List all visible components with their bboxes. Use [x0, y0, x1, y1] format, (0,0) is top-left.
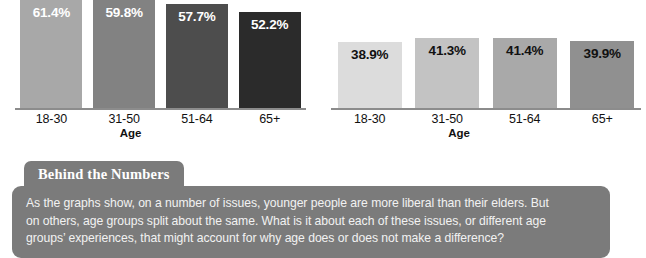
x-axis-title: Age: [15, 127, 246, 139]
bar-value-label: 41.4%: [493, 43, 557, 58]
plot-area-left: 61.4% 59.8% 57.7% 52.2%: [15, 0, 306, 108]
x-axis-line: [331, 108, 641, 110]
callout-text-line: groups’ experiences, that might account …: [26, 230, 596, 248]
bar-value-label: 57.7%: [166, 9, 228, 24]
x-tick-label: 51-64: [161, 112, 234, 126]
bar: 59.8%: [93, 0, 155, 108]
x-tick-label: 31-50: [409, 112, 487, 126]
x-tick-label: 65+: [233, 112, 306, 126]
callout-body: As the graphs show, on a number of issue…: [12, 186, 610, 258]
bar: 39.9%: [570, 41, 634, 108]
x-axis-tick-labels: 18-30 31-50 51-64 65+: [15, 112, 306, 126]
bar-value-label: 61.4%: [20, 5, 82, 20]
bar: 52.2%: [239, 12, 301, 108]
bar-chart-right: 38.9% 41.3% 41.4% 39.9% 18-30: [331, 0, 641, 140]
bar: 41.3%: [415, 38, 479, 108]
x-tick-label: 18-30: [331, 112, 409, 126]
bar-slot: 52.2%: [233, 0, 306, 108]
bar-value-label: 41.3%: [415, 43, 479, 58]
bar-slot: 57.7%: [161, 0, 234, 108]
callout-text-line: on others, age groups split about the sa…: [26, 213, 596, 231]
callout-tab: Behind the Numbers: [24, 161, 184, 188]
x-tick-label: 65+: [564, 112, 642, 126]
bar: 61.4%: [20, 0, 82, 108]
x-tick-label: 51-64: [486, 112, 564, 126]
bar-slot: 39.9%: [564, 0, 642, 108]
bar: 57.7%: [166, 4, 228, 108]
bar-group-left: 61.4% 59.8% 57.7% 52.2%: [15, 0, 306, 108]
callout-text-line: As the graphs show, on a number of issue…: [26, 195, 596, 213]
bar-slot: 61.4%: [15, 0, 88, 108]
x-tick-label: 31-50: [88, 112, 161, 126]
bar-value-label: 38.9%: [338, 47, 402, 62]
x-axis-tick-labels: 18-30 31-50 51-64 65+: [331, 112, 641, 126]
callout-tab-label: Behind the Numbers: [38, 166, 170, 183]
x-tick-label: 18-30: [15, 112, 88, 126]
bar: 38.9%: [338, 42, 402, 108]
bar-slot: 41.3%: [409, 0, 487, 108]
bar-chart-left: 61.4% 59.8% 57.7% 52.2% 18-30: [15, 0, 306, 140]
bar-slot: 59.8%: [88, 0, 161, 108]
bar-group-right: 38.9% 41.3% 41.4% 39.9%: [331, 0, 641, 108]
plot-area-right: 38.9% 41.3% 41.4% 39.9%: [331, 0, 641, 108]
bar-slot: 41.4%: [486, 0, 564, 108]
bar: 41.4%: [493, 38, 557, 108]
bar-value-label: 59.8%: [93, 5, 155, 20]
bar-value-label: 52.2%: [239, 17, 301, 32]
x-axis-title: Age: [331, 127, 587, 139]
bar-value-label: 39.9%: [570, 46, 634, 61]
x-axis-line: [15, 108, 306, 110]
bar-slot: 38.9%: [331, 0, 409, 108]
